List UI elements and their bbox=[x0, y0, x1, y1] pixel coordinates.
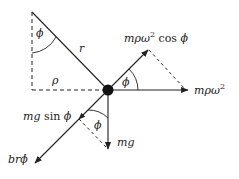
phi-arc-bottom bbox=[88, 110, 108, 118]
label-gravity-component: mg sin ϕ bbox=[23, 110, 72, 123]
phi-arc-right bbox=[129, 69, 138, 90]
label-r: r bbox=[79, 42, 85, 55]
free-body-diagram: ϕ r ρ ϕ ϕ mρω2 cos ϕ mρω2 mg sin ϕ mg br… bbox=[0, 0, 239, 179]
label-centripetal-component: mρω2 cos ϕ bbox=[124, 30, 188, 45]
label-phi-top: ϕ bbox=[36, 27, 44, 40]
label-phi-right: ϕ bbox=[122, 76, 130, 89]
label-centripetal: mρω2 bbox=[194, 82, 225, 97]
label-phi-bottom: ϕ bbox=[94, 119, 102, 132]
label-drag: brϕ̇ bbox=[8, 153, 28, 166]
label-gravity: mg bbox=[117, 136, 134, 149]
bead-mass bbox=[103, 85, 114, 96]
gravity-projection-dashed bbox=[79, 119, 107, 148]
projection-dashed-line bbox=[149, 50, 184, 88]
label-rho: ρ bbox=[51, 74, 59, 87]
rod-line bbox=[32, 12, 108, 90]
